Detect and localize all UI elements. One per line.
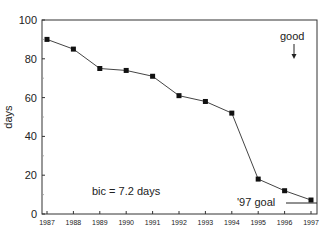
y-axis: 020406080100 — [19, 14, 45, 220]
down-arrow-icon — [292, 44, 297, 59]
data-point-marker — [97, 66, 102, 71]
plot-border — [42, 20, 317, 214]
y-tick-label: 0 — [31, 208, 37, 220]
series-line — [47, 39, 311, 200]
bic-annotation: bic = 7.2 days — [92, 185, 161, 197]
x-tick-label: 1993 — [198, 219, 214, 226]
x-tick-label: 1988 — [66, 219, 82, 226]
data-point-marker — [309, 198, 314, 203]
data-point-marker — [229, 111, 234, 116]
x-tick-label: 1994 — [224, 219, 240, 226]
y-tick-label: 100 — [19, 14, 37, 26]
x-tick-label: 1987 — [39, 219, 55, 226]
data-point-marker — [71, 47, 76, 52]
line-chart: 020406080100 198719881989199019911992199… — [0, 0, 326, 237]
data-point-marker — [150, 74, 155, 79]
data-series — [45, 37, 314, 203]
x-tick-label: 1995 — [250, 219, 266, 226]
y-axis-label: days — [2, 105, 14, 129]
x-tick-label: 1991 — [145, 219, 161, 226]
data-point-marker — [177, 93, 182, 98]
data-point-marker — [203, 99, 208, 104]
y-tick-label: 20 — [25, 169, 37, 181]
x-axis: 1987198819891990199119921993199419951996… — [39, 211, 319, 226]
data-point-marker — [282, 188, 287, 193]
y-tick-label: 80 — [25, 53, 37, 65]
y-tick-label: 60 — [25, 92, 37, 104]
data-point-marker — [124, 68, 129, 73]
goal-annotation: '97 goal — [237, 196, 275, 208]
x-tick-label: 1992 — [171, 219, 187, 226]
good-annotation: good — [280, 30, 304, 42]
plot-frame — [42, 20, 317, 214]
data-point-marker — [256, 177, 261, 182]
x-tick-label: 1990 — [118, 219, 134, 226]
x-tick-label: 1996 — [277, 219, 293, 226]
data-point-marker — [45, 37, 50, 42]
x-tick-label: 1997 — [303, 219, 319, 226]
x-tick-label: 1989 — [92, 219, 108, 226]
y-tick-label: 40 — [25, 130, 37, 142]
